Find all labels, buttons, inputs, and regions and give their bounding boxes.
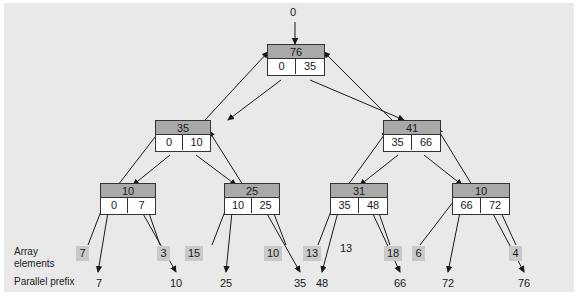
down-arrow-prefix-2 [226, 212, 232, 272]
node-sum: 35 [156, 121, 210, 135]
node-cell-left: 0 [268, 59, 296, 74]
array-elements-label-line2: elements [14, 258, 55, 269]
node-sum: 10 [453, 184, 509, 198]
node-sum: 76 [268, 45, 324, 59]
node-cells: 35 66 [384, 135, 440, 150]
node-cells: 0 7 [101, 198, 155, 213]
array-element: 6 [412, 246, 425, 261]
node-sum: 25 [225, 184, 279, 198]
seed-label: 0 [290, 6, 296, 18]
array-element: 18 [384, 246, 402, 261]
up-arrow-l1 [205, 52, 268, 120]
node-cell-left: 0 [156, 135, 183, 150]
down-arrow-prefix-6 [448, 212, 460, 272]
node-cell-right: 72 [481, 198, 509, 213]
up-arrow-r2a [348, 131, 387, 185]
prefix-value: 72 [438, 277, 458, 289]
down-arrow-prefix-5 [372, 212, 400, 272]
tree-node-left: 35 0 10 [155, 120, 211, 152]
down-arrow-r2a [360, 155, 398, 185]
node-sum: 41 [384, 121, 440, 135]
prefix-value: 35 [290, 277, 310, 289]
node-cell-right: 48 [359, 198, 387, 213]
node-cells: 66 72 [453, 198, 509, 213]
node-cell-right: 10 [183, 135, 210, 150]
array-elements-label-line1: Array [14, 246, 38, 257]
array-element: 3 [157, 246, 170, 261]
node-cell-left: 0 [101, 198, 128, 213]
node-cell-right: 35 [296, 59, 324, 74]
prefix-value: 10 [166, 277, 186, 289]
node-cell-right: 7 [128, 198, 155, 213]
diagram-canvas: 0 76 0 35 35 0 10 41 35 66 10 0 7 25 [0, 0, 578, 303]
node-sum: 31 [331, 184, 387, 198]
down-arrow-l2a [133, 155, 170, 185]
prefix-value: 48 [312, 277, 332, 289]
array-element: 10 [264, 246, 282, 261]
tree-node-rl: 31 35 48 [330, 183, 388, 215]
prefix-value: 25 [216, 277, 236, 289]
parallel-prefix-label: Parallel prefix [14, 276, 75, 288]
prefix-value: 7 [90, 277, 108, 289]
tree-node-right: 41 35 66 [383, 120, 441, 152]
array-elements-label: Array elements [14, 246, 55, 270]
array-element: 7 [76, 246, 89, 261]
tree-node-ll: 10 0 7 [100, 183, 156, 215]
down-arrow-prefix-1 [142, 212, 176, 272]
node-cells: 10 25 [225, 198, 279, 213]
array-element: 15 [185, 246, 203, 261]
prefix-value: 66 [390, 277, 410, 289]
down-arrow-r1 [310, 80, 404, 120]
down-arrow-prefix-3 [266, 212, 300, 272]
node-cell-right: 25 [252, 198, 279, 213]
tree-node-lr: 25 10 25 [224, 183, 280, 215]
node-cell-left: 66 [453, 198, 481, 213]
down-arrow-l2b [196, 155, 236, 185]
node-cells: 0 10 [156, 135, 210, 150]
tree-node-root: 76 0 35 [267, 44, 325, 76]
prefix-annotation: 13 [340, 242, 352, 254]
up-arrow-r2b [437, 128, 472, 185]
node-cells: 35 48 [331, 198, 387, 213]
node-cell-right: 66 [412, 135, 440, 150]
node-sum: 10 [101, 184, 155, 198]
node-cell-left: 10 [225, 198, 252, 213]
tree-node-rr: 10 66 72 [452, 183, 510, 215]
prefix-value: 76 [514, 277, 534, 289]
up-arrow-r1 [324, 52, 392, 120]
node-cell-left: 35 [384, 135, 412, 150]
array-element: 13 [303, 246, 321, 261]
array-element: 4 [509, 246, 522, 261]
down-arrow-prefix-4 [322, 212, 338, 272]
node-cell-left: 35 [331, 198, 359, 213]
down-arrow-prefix-0 [98, 212, 108, 272]
node-cells: 0 35 [268, 59, 324, 74]
down-arrow-prefix-7 [492, 212, 524, 272]
